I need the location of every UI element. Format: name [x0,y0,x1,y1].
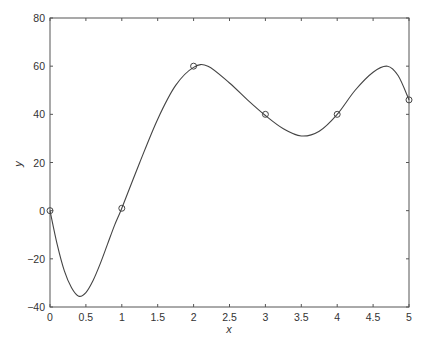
x-axis-ticks: 00.511.522.533.544.55 [47,18,412,323]
x-tick-label: 4.5 [366,311,381,323]
x-tick-label: 1.5 [150,311,165,323]
data-point-markers [47,63,412,214]
y-tick-label: 40 [33,108,45,120]
y-tick-label: 20 [33,157,45,169]
x-tick-label: 4 [334,311,340,323]
x-tick-label: 5 [406,311,412,323]
x-tick-label: 2.5 [222,311,237,323]
x-tick-label: 0.5 [79,311,94,323]
plot-frame [50,18,409,307]
y-tick-label: −40 [27,301,45,313]
interpolating-curve [50,65,409,297]
y-tick-label: 60 [33,60,45,72]
y-axis-ticks: −40−20020406080 [27,12,409,313]
x-tick-label: 3 [262,311,268,323]
y-tick-label: 0 [39,205,45,217]
x-tick-label: 3.5 [294,311,309,323]
y-tick-label: 80 [33,12,45,24]
y-tick-label: −20 [27,253,45,265]
x-tick-label: 2 [191,311,197,323]
x-axis-label: x [225,323,232,335]
x-tick-label: 0 [47,311,53,323]
line-chart: 00.511.522.533.544.55 −40−20020406080 x … [0,0,426,348]
y-axis-label: y [12,160,24,168]
x-tick-label: 1 [119,311,125,323]
